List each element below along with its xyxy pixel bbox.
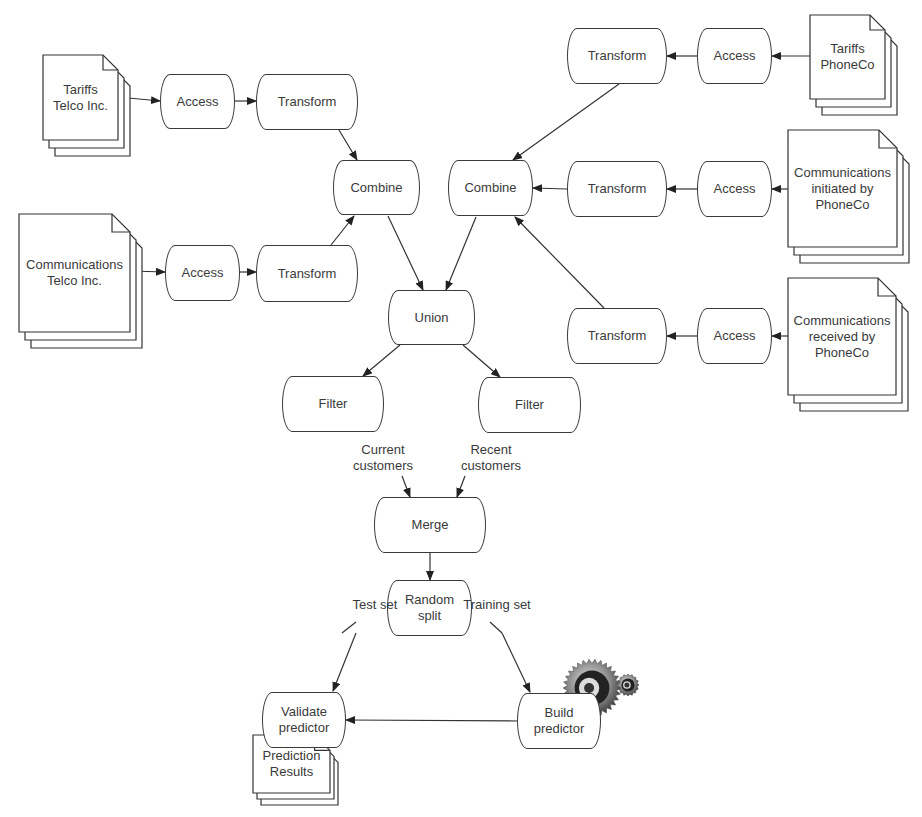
flow-arrow [346, 720, 517, 721]
process-build[interactable]: Build predictor [517, 693, 601, 749]
process-label: Transform [278, 266, 337, 282]
flow-arrow [457, 476, 465, 497]
flow-arrow [388, 216, 423, 290]
process-transform-r1[interactable]: Transform [567, 28, 667, 84]
flow-arrow [463, 345, 500, 377]
process-label: Filter [319, 396, 348, 412]
process-transform-r2[interactable]: Transform [567, 161, 667, 217]
edge-label-training-set: Training set [452, 597, 542, 613]
process-filter2[interactable]: Filter [478, 377, 581, 433]
document-label: Tariffs Telco Inc. [43, 55, 118, 140]
flow-arrow [402, 476, 410, 497]
process-union[interactable]: Union [388, 290, 475, 345]
process-label: Combine [464, 180, 516, 196]
edge-label-recent-customers: Recent customers [446, 442, 536, 474]
process-access2[interactable]: Access [165, 245, 240, 301]
process-merge[interactable]: Merge [374, 497, 486, 553]
flow-arrow [513, 84, 619, 160]
edge-label-current-customers: Current customers [338, 442, 428, 474]
process-combine1[interactable]: Combine [333, 160, 420, 215]
edge-label-test-set: Test set [340, 597, 410, 613]
process-label: Access [177, 94, 219, 110]
process-label: Access [714, 328, 756, 344]
process-access1[interactable]: Access [160, 74, 235, 129]
document-label: Communications received by PhoneCo [788, 278, 896, 395]
flow-arrow [515, 217, 604, 308]
process-access-r3[interactable]: Access [697, 308, 772, 364]
process-label: Combine [350, 180, 402, 196]
process-label: Access [714, 48, 756, 64]
process-transform-r3[interactable]: Transform [567, 308, 667, 364]
document-label: Tariffs PhoneCo [810, 15, 885, 99]
process-label: Access [714, 181, 756, 197]
document-label: Communications initiated by PhoneCo [788, 130, 897, 247]
flow-arrow [446, 217, 476, 290]
document-label: Prediction Results [253, 735, 330, 793]
process-label: Transform [588, 181, 647, 197]
process-label: Filter [515, 397, 544, 413]
process-label: Merge [412, 517, 449, 533]
process-combine2[interactable]: Combine [448, 160, 533, 216]
process-access-r1[interactable]: Access [697, 28, 772, 84]
process-access-r2[interactable]: Access [697, 161, 772, 217]
process-label: Union [415, 310, 449, 326]
process-label: Transform [278, 94, 337, 110]
flow-arrow [342, 622, 356, 633]
flow-arrow [490, 622, 502, 633]
process-label: Build predictor [534, 705, 585, 737]
process-transform1[interactable]: Transform [256, 74, 358, 130]
diagram-canvas [0, 0, 922, 817]
document-label: Communications Telco Inc. [19, 214, 130, 332]
flow-arrow [339, 130, 357, 160]
flow-arrow [331, 216, 354, 245]
documents [19, 15, 909, 805]
flow-arrow [502, 633, 530, 692]
process-label: Random split [405, 592, 454, 624]
process-label: Access [182, 265, 224, 281]
flow-arrow [363, 345, 400, 376]
process-label: Validate predictor [279, 704, 330, 736]
process-transform2[interactable]: Transform [256, 245, 358, 302]
flow-arrow [333, 633, 356, 691]
process-label: Transform [588, 48, 647, 64]
flow-arrow [533, 188, 567, 189]
process-label: Transform [588, 328, 647, 344]
process-filter1[interactable]: Filter [282, 376, 384, 432]
